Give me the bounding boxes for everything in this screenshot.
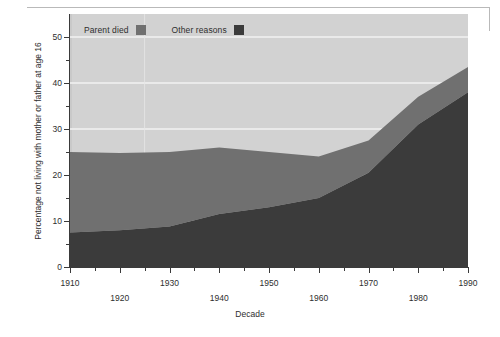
x-tick-label: 1920	[110, 293, 129, 303]
legend-item-parent-died[interactable]: Parent died	[84, 25, 146, 35]
chart-legend: Parent died Other reasons	[84, 25, 244, 35]
y-tick	[66, 106, 69, 107]
x-tick	[443, 268, 444, 271]
x-tick	[120, 268, 121, 273]
x-tick	[70, 268, 71, 273]
y-tick	[64, 129, 69, 130]
x-tick	[418, 268, 419, 273]
x-tick	[468, 268, 469, 273]
x-tick	[294, 268, 295, 271]
y-tick-label: 0	[38, 262, 62, 272]
y-axis-title: Percentage not living with mother or fat…	[33, 26, 43, 256]
x-tick	[145, 268, 146, 271]
x-tick	[319, 268, 320, 273]
x-tick	[369, 268, 370, 273]
x-tick	[194, 268, 195, 271]
stacked-area-plot	[70, 14, 468, 267]
x-tick	[344, 268, 345, 271]
x-tick	[170, 268, 171, 273]
y-tick	[64, 221, 69, 222]
page-rule-right	[489, 7, 490, 31]
x-tick-label: 1980	[409, 293, 428, 303]
x-tick	[269, 268, 270, 273]
page-rule-top	[27, 7, 490, 8]
y-tick	[64, 175, 69, 176]
x-tick	[219, 268, 220, 273]
y-tick	[64, 83, 69, 84]
x-tick	[244, 268, 245, 271]
legend-label-parent-died: Parent died	[84, 25, 129, 35]
x-tick-label: 1910	[61, 278, 80, 288]
x-tick-label: 1970	[359, 278, 378, 288]
x-tick-label: 1930	[160, 278, 179, 288]
x-axis-title: Decade	[0, 309, 500, 319]
y-tick	[64, 37, 69, 38]
x-tick	[393, 268, 394, 271]
chart-figure: Parent died Other reasons 01020304050 19…	[0, 0, 500, 337]
x-tick	[95, 268, 96, 271]
y-tick	[66, 244, 69, 245]
x-tick-label: 1990	[459, 278, 478, 288]
area-series-group	[70, 67, 468, 267]
legend-swatch-parent-died	[136, 25, 146, 35]
y-tick	[66, 60, 69, 61]
y-tick	[66, 152, 69, 153]
x-tick-label: 1960	[309, 293, 328, 303]
y-tick	[66, 198, 69, 199]
legend-label-other-reasons: Other reasons	[172, 25, 227, 35]
x-tick-label: 1950	[260, 278, 279, 288]
legend-swatch-other-reasons	[234, 25, 244, 35]
legend-item-other-reasons[interactable]: Other reasons	[172, 25, 244, 35]
x-tick-label: 1940	[210, 293, 229, 303]
y-tick	[64, 267, 69, 268]
y-axis-line	[69, 14, 70, 268]
plot-panel: Parent died Other reasons	[70, 14, 468, 267]
